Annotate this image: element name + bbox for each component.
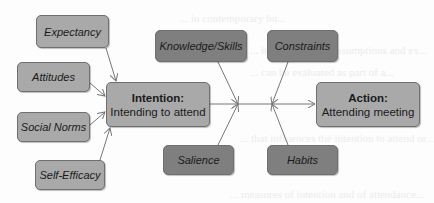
node-knowledge-skills: Knowledge/Skills (155, 30, 247, 62)
arrow-socialnorms-to-intention (90, 112, 105, 125)
arrow-selfefficacy-to-intention (100, 128, 110, 160)
node-label: Social Norms (21, 121, 86, 133)
arrow-salience-to-path (218, 104, 238, 145)
node-label: Expectancy (44, 26, 101, 38)
diagram-canvas: ... in contemporary bu... ... its founda… (0, 0, 434, 203)
arrow-expectancy-to-intention (106, 48, 116, 81)
node-subtitle: Intending to attend (110, 105, 205, 119)
node-intention: Intention: Intending to attend (106, 82, 210, 127)
node-title: Action: (348, 91, 388, 105)
node-habits: Habits (267, 145, 338, 175)
node-label: Attitudes (32, 71, 75, 83)
arrow-habits-to-path (272, 104, 288, 145)
node-salience: Salience (163, 145, 234, 175)
node-label: Self-Efficacy (39, 169, 100, 181)
node-label: Salience (177, 154, 219, 166)
node-self-efficacy: Self-Efficacy (35, 160, 105, 190)
arrow-knowledge-to-path (218, 62, 238, 104)
node-title: Intention: (132, 91, 184, 105)
arrow-constraints-to-path (272, 62, 288, 104)
node-constraints: Constraints (267, 30, 338, 62)
node-social-norms: Social Norms (17, 112, 90, 142)
node-attitudes: Attitudes (17, 62, 90, 92)
node-action: Action: Attending meeting (316, 82, 420, 127)
node-subtitle: Attending meeting (322, 105, 415, 119)
node-expectancy: Expectancy (36, 15, 109, 48)
node-label: Constraints (275, 40, 331, 52)
arrow-attitudes-to-intention (90, 83, 105, 96)
node-label: Knowledge/Skills (159, 40, 242, 52)
node-label: Habits (287, 154, 318, 166)
